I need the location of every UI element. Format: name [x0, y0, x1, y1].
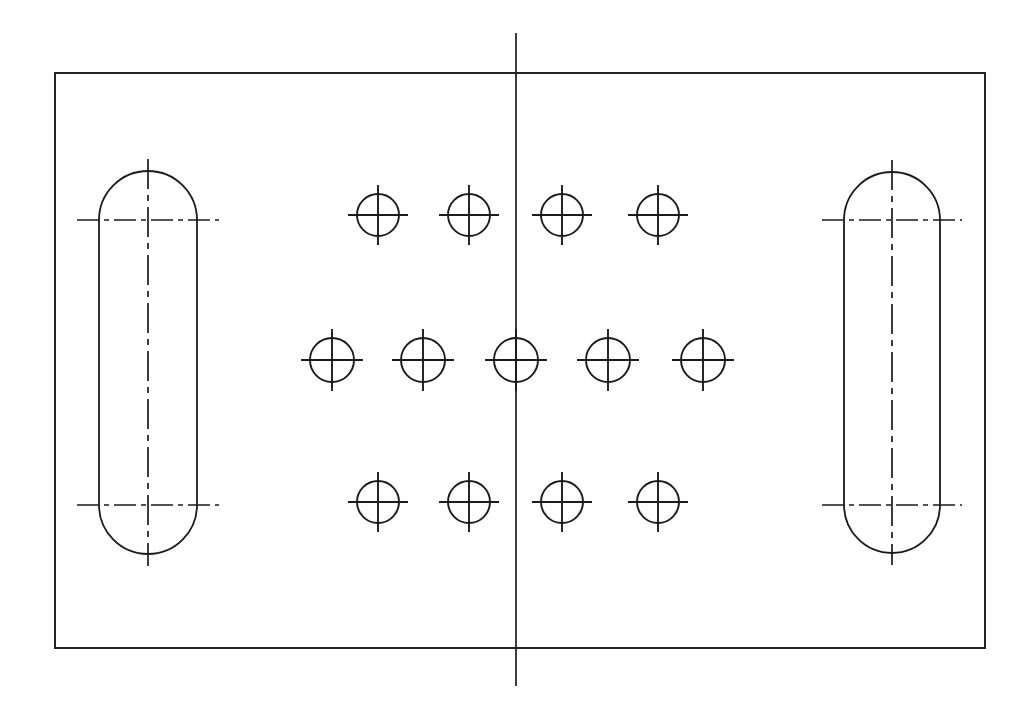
engineering-drawing-canvas [0, 0, 1035, 721]
left-obround-slot [77, 159, 219, 566]
drawing-svg-root [0, 0, 1035, 721]
